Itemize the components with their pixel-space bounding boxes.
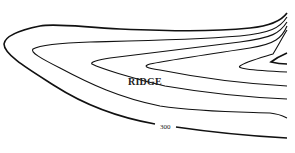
contour-line-6 bbox=[271, 53, 287, 64]
contour-diagram: RIDGE 300 bbox=[0, 0, 295, 153]
contour-line-300-right bbox=[176, 127, 287, 138]
ridge-label: RIDGE bbox=[128, 76, 162, 87]
elevation-label-300: 300 bbox=[160, 123, 171, 131]
contour-line-2 bbox=[32, 17, 287, 118]
